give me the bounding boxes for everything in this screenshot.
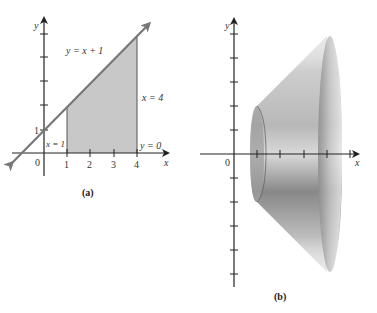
boundary-label-bottom: y = 0 <box>139 140 161 151</box>
y-axis-label: y <box>33 20 39 31</box>
origin-label: 0 <box>225 157 230 168</box>
x-tick-label-2: 2 <box>87 159 92 170</box>
figure-canvas: y x 0 1 2 3 4 1 y = x + 1 x = 4 x = 1 y … <box>0 0 377 313</box>
caption-b: (b) <box>274 291 286 303</box>
figure-b: y x 0 (b) <box>200 19 360 303</box>
origin-label: 0 <box>35 157 40 168</box>
x-tick-label-4: 4 <box>134 159 139 170</box>
line-label: y = x + 1 <box>65 45 103 56</box>
figure-a: y x 0 1 2 3 4 1 y = x + 1 x = 4 x = 1 y … <box>12 18 169 199</box>
y-axis-label: y <box>224 20 230 31</box>
boundary-label-right: x = 4 <box>141 92 163 103</box>
boundary-label-left: x = 1 <box>45 139 65 149</box>
x-axis-label: x <box>163 157 169 168</box>
caption-a: (a) <box>82 187 94 199</box>
x-tick-label-3: 3 <box>111 159 116 170</box>
x-tick-label-1: 1 <box>64 159 69 170</box>
y-tick-label-1: 1 <box>34 125 39 136</box>
x-axis-label: x <box>354 157 360 168</box>
